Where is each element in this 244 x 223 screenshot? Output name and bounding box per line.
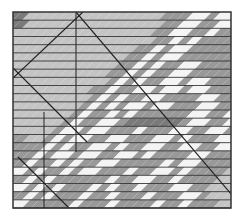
pattern-canvas xyxy=(0,0,244,223)
